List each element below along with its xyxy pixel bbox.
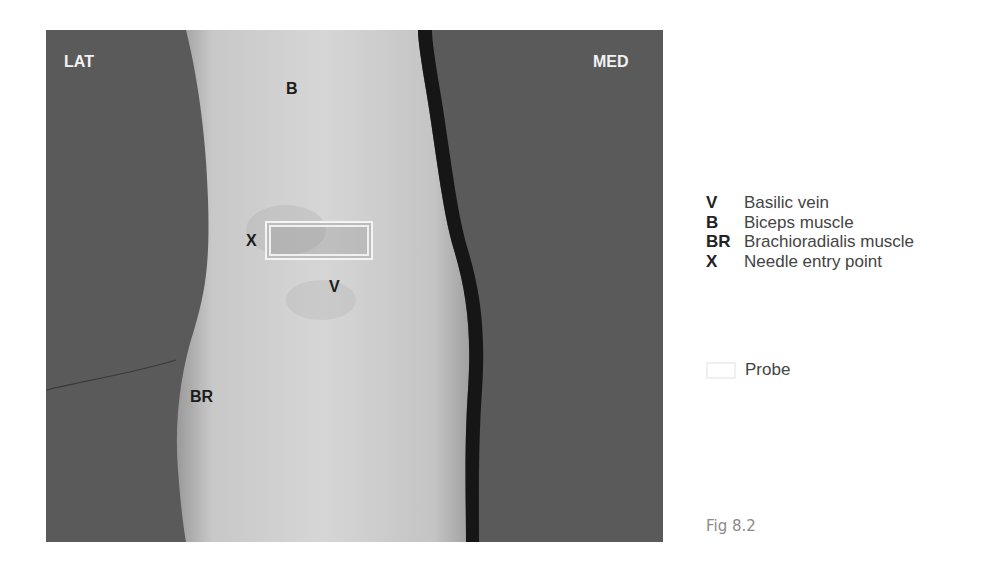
medial-label: MED	[593, 54, 629, 70]
arm-silhouette	[46, 30, 663, 542]
legend-text: Brachioradialis muscle	[744, 232, 914, 252]
lateral-label: LAT	[64, 54, 94, 70]
legend-item: BR Brachioradialis muscle	[706, 232, 914, 252]
figure-caption: Fig 8.2	[706, 517, 756, 535]
probe-legend-text: Probe	[745, 360, 790, 380]
legend: V Basilic vein B Biceps muscle BR Brachi…	[706, 193, 914, 271]
needle-entry-label: X	[246, 233, 257, 249]
legend-text: Needle entry point	[744, 252, 882, 272]
legend-item: X Needle entry point	[706, 252, 914, 272]
probe-legend: Probe	[706, 360, 790, 380]
legend-key: V	[706, 193, 744, 213]
legend-text: Basilic vein	[744, 193, 829, 213]
brachioradialis-label: BR	[190, 389, 213, 405]
probe-swatch-icon	[706, 362, 736, 379]
biceps-label: B	[286, 81, 298, 97]
legend-key: B	[706, 213, 744, 233]
probe-outline	[265, 221, 373, 260]
legend-key: X	[706, 252, 744, 272]
legend-item: B Biceps muscle	[706, 213, 914, 233]
arm-photograph: LAT MED B X V BR	[46, 30, 663, 542]
vein-label: V	[329, 279, 340, 295]
legend-key: BR	[706, 232, 744, 252]
legend-text: Biceps muscle	[744, 213, 854, 233]
legend-item: V Basilic vein	[706, 193, 914, 213]
